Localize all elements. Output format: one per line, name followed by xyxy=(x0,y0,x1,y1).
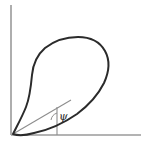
angle-arc xyxy=(51,113,57,120)
teardrop-diagram: ψ xyxy=(0,0,150,148)
angle-label: ψ xyxy=(59,110,68,123)
figure-container: ψ xyxy=(0,0,150,148)
